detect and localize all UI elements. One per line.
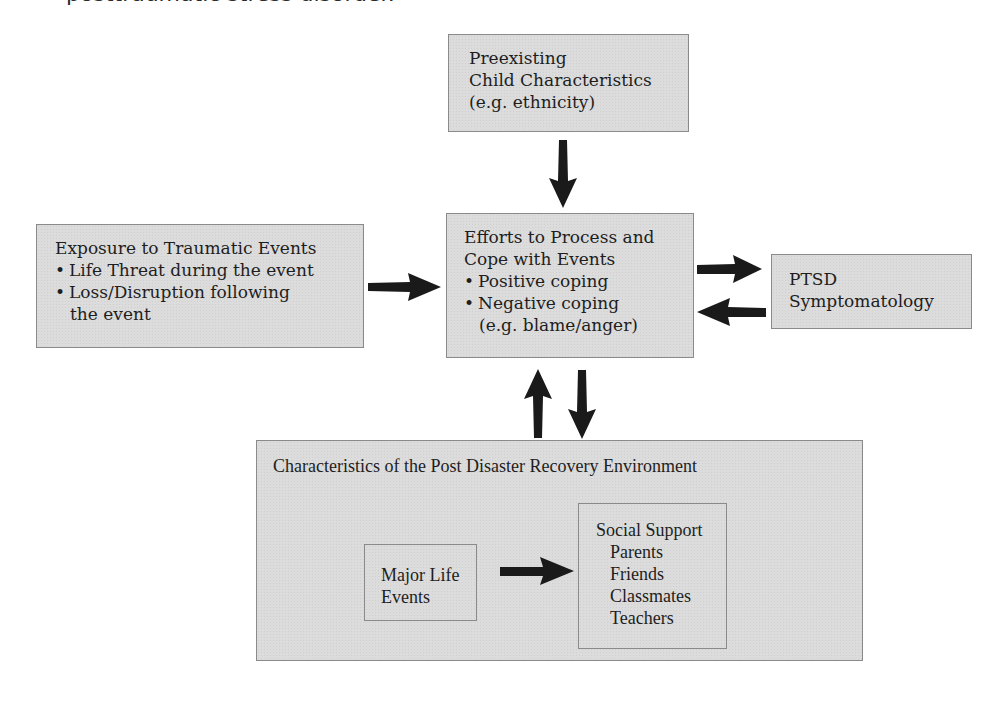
box-line: (e.g. ethnicity): [469, 91, 688, 113]
bullet-item: Negative coping: [464, 292, 693, 314]
arrow-down-icon: [567, 370, 597, 440]
arrow-down-icon: [548, 138, 578, 208]
box-line: Efforts to Process and: [464, 226, 693, 248]
list-item: Classmates: [596, 585, 726, 607]
box-line: Major Life: [381, 564, 476, 586]
ptsd-symptomatology-box: PTSD Symptomatology: [771, 254, 972, 329]
box-line: Child Characteristics: [469, 69, 688, 91]
box-title: Exposure to Traumatic Events: [55, 237, 363, 259]
exposure-traumatic-events-box: Exposure to Traumatic Events Life Threat…: [36, 224, 364, 348]
box-line: Symptomatology: [789, 290, 971, 312]
box-line: PTSD: [789, 268, 971, 290]
box-line: Preexisting: [469, 47, 688, 69]
major-life-events-box: Major Life Events: [364, 544, 477, 621]
bullet-item: Loss/Disruption following: [55, 281, 363, 303]
bullet-continuation: the event: [55, 303, 363, 325]
preexisting-characteristics-box: Preexisting Child Characteristics (e.g. …: [448, 34, 689, 132]
arrow-right-icon: [368, 270, 442, 304]
box-line: Events: [381, 586, 476, 608]
list-item: Teachers: [596, 607, 726, 629]
arrow-up-icon: [523, 369, 553, 439]
box-title: Characteristics of the Post Disaster Rec…: [273, 455, 697, 477]
efforts-to-cope-box: Efforts to Process and Cope with Events …: [446, 213, 694, 358]
bullet-item: Positive coping: [464, 270, 693, 292]
arrow-left-icon: [697, 297, 767, 327]
box-title: Social Support: [596, 519, 726, 541]
list-item: Parents: [596, 541, 726, 563]
clipped-caption-fragment: posttraumatic stress disorder.: [66, 0, 486, 6]
bullet-continuation: (e.g. blame/anger): [464, 314, 693, 336]
arrow-right-icon: [697, 254, 763, 284]
list-item: Friends: [596, 563, 726, 585]
arrow-right-icon: [500, 554, 575, 588]
bullet-item: Life Threat during the event: [55, 259, 363, 281]
social-support-box: Social Support Parents Friends Classmate…: [578, 503, 727, 649]
box-line: Cope with Events: [464, 248, 693, 270]
recovery-environment-box: Characteristics of the Post Disaster Rec…: [256, 440, 863, 661]
